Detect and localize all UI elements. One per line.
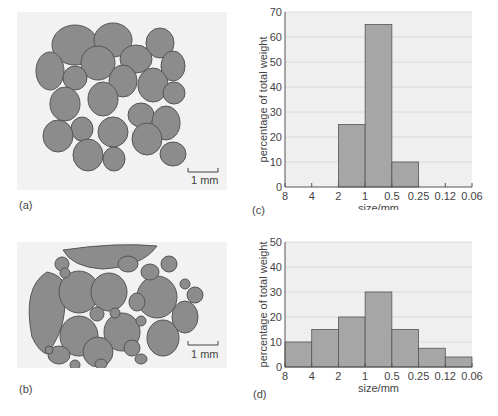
y-tick-label: 20 <box>270 131 282 143</box>
histogram-c: 01020304050607084210.50.250.120.06size/m… <box>250 0 498 210</box>
histogram-bar <box>392 162 419 187</box>
scale-bar-label: 1 mm <box>191 348 219 360</box>
y-tick-label: 10 <box>270 336 282 348</box>
x-tick-label: 8 <box>282 370 288 382</box>
grains-image-a: 1 mm <box>17 12 227 190</box>
y-tick-label: 60 <box>270 31 282 43</box>
x-tick-label: 2 <box>335 370 341 382</box>
panel-label-d: (d) <box>253 388 266 400</box>
histogram-bar <box>392 330 419 368</box>
x-tick-label: 0.06 <box>461 190 482 202</box>
x-tick-label: 4 <box>309 190 315 202</box>
y-tick-label: 50 <box>270 236 282 248</box>
y-tick-label: 50 <box>270 56 282 68</box>
scale-bar-label: 1 mm <box>191 174 219 186</box>
y-tick-label: 30 <box>270 286 282 298</box>
well-sorted-grains-illustration <box>17 12 227 190</box>
histogram-c-svg: 01020304050607084210.50.250.120.06size/m… <box>250 0 498 210</box>
histogram-bar <box>419 348 446 367</box>
histogram-bar <box>338 125 365 188</box>
grains-image-b: 1 mm <box>17 242 227 368</box>
x-tick-label: 0.12 <box>435 370 456 382</box>
y-tick-label: 30 <box>270 106 282 118</box>
panel-label-c: (c) <box>252 204 265 216</box>
x-tick-label: 8 <box>282 190 288 202</box>
panel-label-b: (b) <box>19 383 32 395</box>
histogram-bar <box>285 342 312 367</box>
x-tick-label: 1 <box>362 370 368 382</box>
x-tick-label: 0.06 <box>461 370 482 382</box>
x-tick-label: 0.25 <box>408 370 429 382</box>
histogram-bar <box>445 357 472 367</box>
histogram-bar <box>338 317 365 367</box>
x-tick-label: 0.5 <box>384 190 399 202</box>
histogram-bar <box>365 292 392 367</box>
histogram-bar <box>312 330 339 368</box>
y-tick-label: 40 <box>270 81 282 93</box>
x-tick-label: 0.25 <box>408 190 429 202</box>
x-tick-label: 1 <box>362 190 368 202</box>
x-tick-label: 2 <box>335 190 341 202</box>
y-tick-label: 10 <box>270 156 282 168</box>
x-tick-label: 4 <box>309 370 315 382</box>
x-axis-label: size/mm <box>358 202 399 210</box>
y-axis-label: percentage of total weight <box>257 37 269 163</box>
x-tick-label: 0.12 <box>435 190 456 202</box>
y-axis-label: percentage of total weight <box>257 242 269 368</box>
x-tick-label: 0.5 <box>384 370 399 382</box>
histogram-bar <box>365 25 392 188</box>
y-tick-label: 20 <box>270 311 282 323</box>
panel-label-a: (a) <box>19 199 32 211</box>
x-axis-label: size/mm <box>358 382 399 394</box>
y-tick-label: 40 <box>270 261 282 273</box>
histogram-d: 0102030405084210.50.250.120.06size/mmper… <box>250 234 498 416</box>
histogram-d-svg: 0102030405084210.50.250.120.06size/mmper… <box>250 234 498 416</box>
y-tick-label: 70 <box>270 6 282 18</box>
